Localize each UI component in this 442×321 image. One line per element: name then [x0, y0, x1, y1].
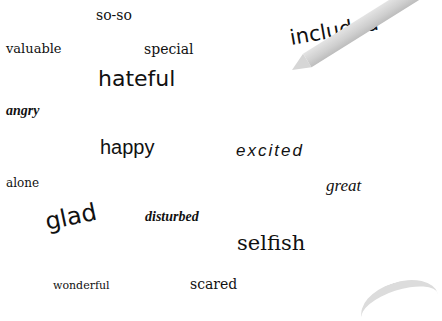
- word-excited: excited: [236, 142, 304, 159]
- word-so-so: so-so: [96, 8, 132, 22]
- word-disturbed: disturbed: [145, 210, 199, 224]
- word-glad: glad: [43, 200, 99, 234]
- paper-curl-icon: [355, 271, 442, 321]
- word-scared: scared: [190, 277, 237, 291]
- word-hateful: hateful: [98, 68, 175, 90]
- word-alone: alone: [6, 177, 39, 189]
- word-wonderful: wonderful: [53, 280, 110, 291]
- word-angry: angry: [6, 104, 39, 118]
- word-great: great: [326, 177, 361, 194]
- word-valuable: valuable: [6, 42, 62, 55]
- word-happy: happy: [100, 137, 155, 157]
- word-selfish: selfish: [237, 233, 305, 254]
- word-special: special: [144, 42, 194, 56]
